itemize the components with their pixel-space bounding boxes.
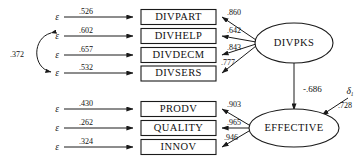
error-value-prodv: .430 bbox=[79, 99, 93, 108]
loading-value-divpart: .860 bbox=[227, 8, 241, 17]
epsilon-icon-divsers: ε bbox=[55, 68, 59, 78]
epsilon-icon-divdecm: ε bbox=[55, 50, 59, 60]
error-value-divhelp: .602 bbox=[79, 26, 93, 35]
delta-icon-effective: δ1 bbox=[346, 86, 353, 97]
latent-label-divpks: DIVPKS bbox=[274, 37, 314, 48]
error-path-group-bottom bbox=[64, 109, 133, 147]
epsilon-icon-divhelp: ε bbox=[55, 31, 59, 41]
loading-value-innov: .946 bbox=[224, 133, 238, 142]
sem-path-diagram: ε ε ε ε .526 .602 .657 .532 .372 DIVPART… bbox=[0, 0, 360, 166]
indicator-label-divdecm: DIVDECM bbox=[153, 49, 205, 60]
loading-value-divsers: .777 bbox=[221, 58, 235, 67]
error-value-divpart: .526 bbox=[79, 7, 93, 16]
indicator-label-divpart: DIVPART bbox=[155, 11, 202, 22]
error-value-divsers: .532 bbox=[79, 63, 93, 72]
latent-label-effective: EFFECTIVE bbox=[264, 122, 323, 133]
epsilon-icon-quality: ε bbox=[55, 123, 59, 133]
epsilon-icon-prodv: ε bbox=[55, 104, 59, 114]
diagram-canvas: ε ε ε ε .526 .602 .657 .532 .372 DIVPART… bbox=[0, 0, 360, 166]
error-covariance-curve bbox=[37, 33, 51, 72]
indicator-label-innov: INNOV bbox=[161, 141, 197, 152]
disturbance-value: .728 bbox=[338, 101, 352, 110]
loading-value-divdecm: .843 bbox=[227, 43, 241, 52]
loading-value-quality: .965 bbox=[227, 118, 241, 127]
indicator-label-divsers: DIVSERS bbox=[155, 67, 202, 78]
error-value-quality: .262 bbox=[79, 118, 93, 127]
epsilon-icon-divpart: ε bbox=[55, 12, 59, 22]
indicator-label-divhelp: DIVHELP bbox=[155, 30, 203, 41]
error-value-divdecm: .657 bbox=[79, 45, 93, 54]
indicator-label-prodv: PRODV bbox=[160, 103, 198, 114]
error-path-group-top bbox=[64, 17, 133, 73]
structural-path-value: -.686 bbox=[303, 84, 322, 94]
epsilon-icon-innov: ε bbox=[55, 142, 59, 152]
loading-value-prodv: .903 bbox=[227, 100, 241, 109]
indicator-label-quality: QUALITY bbox=[154, 122, 203, 133]
error-value-innov: .324 bbox=[79, 137, 93, 146]
loading-value-divhelp: .642 bbox=[227, 26, 241, 35]
error-covariance-value: .372 bbox=[10, 50, 24, 59]
